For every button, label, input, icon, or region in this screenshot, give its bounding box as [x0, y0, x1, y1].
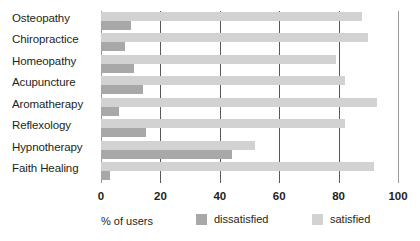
- grouped-bar-chart: Osteopathy Chiropractice Homeopathy Acup…: [0, 0, 420, 241]
- x-tick-label-40: 40: [213, 190, 226, 202]
- legend-swatch-dissatisfied-icon: [196, 214, 207, 225]
- chart-legend: % of users dissatisfied satisfied: [0, 213, 420, 233]
- x-axis-title: % of users: [101, 215, 153, 227]
- bar-satisfied-6: [101, 141, 255, 150]
- category-axis-labels: Osteopathy Chiropractice Homeopathy Acup…: [0, 0, 96, 186]
- bar-dissatisfied-7: [101, 171, 110, 180]
- bar-satisfied-1: [101, 33, 368, 42]
- x-tick-label-0: 0: [98, 190, 104, 202]
- category-label-1: Chiropractice: [0, 33, 88, 45]
- category-label-3: Acupuncture: [0, 76, 88, 88]
- bar-satisfied-2: [101, 55, 336, 64]
- legend-item-satisfied: satisfied: [312, 213, 370, 225]
- legend-swatch-satisfied-icon: [312, 214, 323, 225]
- x-tick-label-60: 60: [273, 190, 286, 202]
- gridline-100: [398, 11, 399, 183]
- bar-dissatisfied-6: [101, 150, 232, 159]
- bar-satisfied-4: [101, 98, 377, 107]
- bar-satisfied-0: [101, 12, 362, 21]
- bar-dissatisfied-2: [101, 64, 134, 73]
- bar-dissatisfied-3: [101, 85, 143, 94]
- bar-satisfied-5: [101, 119, 345, 128]
- legend-label-dissatisfied: dissatisfied: [214, 213, 268, 225]
- category-label-2: Homeopathy: [0, 55, 88, 67]
- bar-satisfied-3: [101, 76, 345, 85]
- category-label-0: Osteopathy: [0, 12, 88, 24]
- legend-label-satisfied: satisfied: [330, 213, 370, 225]
- x-tick-label-20: 20: [154, 190, 167, 202]
- bar-dissatisfied-5: [101, 128, 146, 137]
- category-label-5: Reflexology: [0, 119, 88, 131]
- category-label-6: Hypnotherapy: [0, 141, 88, 153]
- legend-item-dissatisfied: dissatisfied: [196, 213, 268, 225]
- x-tick-label-80: 80: [332, 190, 345, 202]
- x-axis: 020406080100: [0, 183, 420, 205]
- bar-dissatisfied-0: [101, 21, 131, 30]
- bar-dissatisfied-1: [101, 42, 125, 51]
- category-label-7: Faith Healing: [0, 162, 88, 174]
- plot-area: [101, 11, 398, 183]
- bar-satisfied-7: [101, 162, 374, 171]
- category-label-4: Aromatherapy: [0, 98, 88, 110]
- x-tick-label-100: 100: [388, 190, 407, 202]
- bar-dissatisfied-4: [101, 107, 119, 116]
